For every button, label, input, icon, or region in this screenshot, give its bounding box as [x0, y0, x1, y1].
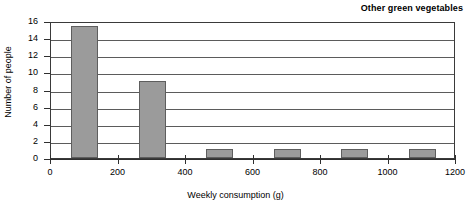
y-tick-label: 0 — [16, 154, 38, 163]
x-tick — [455, 155, 456, 164]
chart-title: Other green vegetables — [361, 3, 463, 13]
bar — [206, 149, 233, 158]
x-tick-label: 1000 — [368, 167, 408, 177]
x-tick-label: 200 — [98, 167, 138, 177]
x-tick-label: 800 — [300, 167, 340, 177]
y-tick-label: 8 — [16, 86, 38, 95]
y-axis-title: Number of people — [3, 27, 13, 137]
y-tick-label: 2 — [16, 137, 38, 146]
x-tick — [50, 155, 51, 164]
bar-series — [51, 23, 454, 158]
x-tick-label: 1200 — [435, 167, 471, 177]
bar — [139, 81, 166, 158]
y-axis-title-wrap: Number of people — [0, 22, 14, 159]
bar — [71, 26, 98, 158]
y-tick-label: 4 — [16, 120, 38, 129]
x-tick — [118, 155, 119, 164]
y-tick-label: 10 — [16, 68, 38, 77]
y-tick-label: 12 — [16, 51, 38, 60]
x-tick — [320, 155, 321, 164]
plot-area — [50, 22, 455, 159]
y-tick-label: 16 — [16, 17, 38, 26]
x-tick — [253, 155, 254, 164]
bar — [409, 149, 436, 158]
bar — [341, 149, 368, 158]
x-tick — [185, 155, 186, 164]
x-tick-label: 400 — [165, 167, 205, 177]
x-tick-label: 0 — [30, 167, 70, 177]
chart-container: Other green vegetables Number of people … — [0, 0, 471, 208]
x-tick-label: 600 — [233, 167, 273, 177]
y-tick-label: 6 — [16, 103, 38, 112]
bar — [274, 149, 301, 158]
x-tick — [388, 155, 389, 164]
x-axis-title: Weekly consumption (g) — [0, 190, 471, 200]
y-tick-label: 14 — [16, 34, 38, 43]
